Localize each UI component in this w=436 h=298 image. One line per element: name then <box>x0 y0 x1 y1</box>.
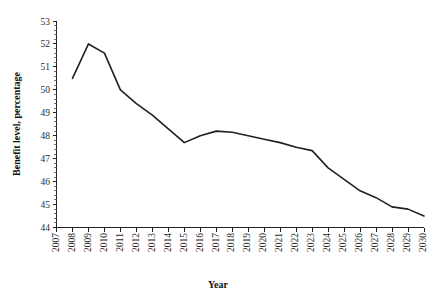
y-tick-label: 48 <box>41 131 51 141</box>
x-tick-label: 2015 <box>179 233 189 252</box>
x-tick-label: 2025 <box>338 233 348 252</box>
y-tick-label: 52 <box>41 39 51 49</box>
x-tick-label: 2029 <box>402 233 412 252</box>
y-tick-label: 51 <box>41 62 51 72</box>
x-tick-label: 2018 <box>226 233 236 252</box>
x-tick-label: 2026 <box>354 233 364 252</box>
x-tick-label: 2030 <box>418 233 428 252</box>
x-tick-label: 2023 <box>306 233 316 252</box>
x-tick-label: 2028 <box>386 233 396 252</box>
y-axis-title: Benefit level, percentage <box>11 71 22 176</box>
y-tick-label: 50 <box>41 85 51 95</box>
y-tick-label: 53 <box>41 17 51 27</box>
y-tick-label: 45 <box>41 200 51 210</box>
x-tick-label: 2011 <box>115 233 125 252</box>
y-tick-label: 49 <box>41 108 51 118</box>
y-tick-label: 47 <box>41 154 51 164</box>
line-chart: 53 52 51 50 49 48 47 46 45 44 2007 2008 … <box>0 0 436 298</box>
x-tick-label: 2020 <box>258 233 268 252</box>
chart-figure: 53 52 51 50 49 48 47 46 45 44 2007 2008 … <box>0 0 436 298</box>
x-tick-label: 2027 <box>370 233 380 252</box>
x-axis-title: Year <box>208 279 229 290</box>
x-tick-label: 2013 <box>147 233 157 252</box>
y-tick-label: 44 <box>41 223 51 233</box>
x-tick-label: 2008 <box>67 233 77 252</box>
y-tick-labels: 53 52 51 50 49 48 47 46 45 44 <box>41 17 51 233</box>
x-tick-label: 2010 <box>99 233 109 252</box>
x-tick-label: 2024 <box>322 233 332 252</box>
x-tick-label: 2017 <box>211 233 221 252</box>
x-tick-label: 2012 <box>131 233 141 252</box>
x-tick-label: 2021 <box>274 233 284 252</box>
x-tick-label: 2014 <box>163 233 173 252</box>
x-tick-labels: 2007 2008 2009 2010 2011 2012 2013 2014 … <box>51 233 428 252</box>
data-series-line <box>72 44 424 216</box>
y-tick-marks <box>53 21 57 228</box>
x-tick-marks <box>57 228 425 232</box>
x-tick-label: 2007 <box>51 233 61 252</box>
x-tick-label: 2022 <box>290 233 300 252</box>
x-tick-label: 2016 <box>195 233 205 252</box>
y-tick-label: 46 <box>41 177 51 187</box>
x-tick-label: 2019 <box>242 233 252 252</box>
x-tick-label: 2009 <box>83 233 93 252</box>
